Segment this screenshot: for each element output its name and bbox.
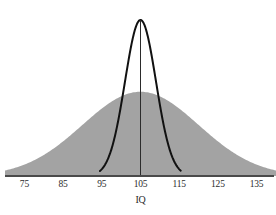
- x-axis-tick-135: 135: [250, 180, 264, 190]
- x-axis-tick-125: 125: [211, 180, 225, 190]
- x-axis-tick-105: 105: [134, 180, 148, 190]
- x-axis-tick-115: 115: [173, 180, 186, 190]
- x-axis-tick-85: 85: [59, 180, 68, 190]
- iq-distribution-figure: 758595105115125135 IQ: [0, 0, 276, 215]
- x-axis-tick-95: 95: [97, 180, 106, 190]
- x-axis-title: IQ: [135, 195, 145, 205]
- x-axis-tick-75: 75: [20, 180, 29, 190]
